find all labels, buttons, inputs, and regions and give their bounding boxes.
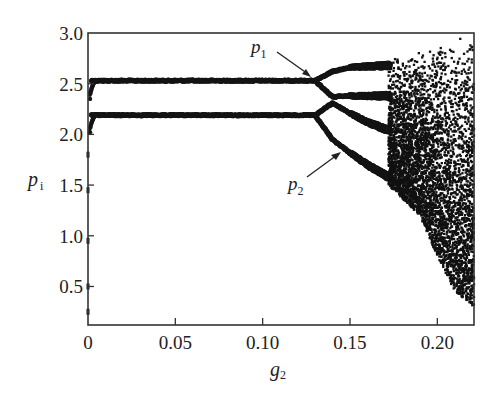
y-tick-label: 3.0 [59,23,83,44]
y-tick-label: 1.0 [59,226,83,247]
y-tick-label: 2.0 [59,124,83,145]
x-axis-label: g2 [270,358,286,382]
x-axis-ticks: 00.050.100.150.20 [83,318,454,353]
y-axis-label: pi [26,168,44,193]
x-tick-label: 0.20 [421,332,454,353]
y-tick-label: 1.5 [59,175,83,196]
annotation-p1: p1 [249,36,311,77]
y-tick-label: 2.5 [59,74,83,95]
annotation-p2: p2 [286,152,341,198]
svg-text:p2: p2 [286,173,304,198]
x-tick-label: 0.05 [159,332,192,353]
x-tick-label: 0.15 [333,332,366,353]
arrow-p2 [307,155,337,177]
x-tick-label: 0.10 [246,332,279,353]
plot-data-layer [87,38,476,315]
arrow-p1 [277,52,308,74]
y-tick-label: 0.5 [59,276,83,297]
x-tick-label: 0 [83,332,93,353]
svg-text:p1: p1 [249,36,267,61]
bifurcation-chart: 0.51.01.52.02.53.0 00.050.100.150.20 g2 … [0,0,498,405]
